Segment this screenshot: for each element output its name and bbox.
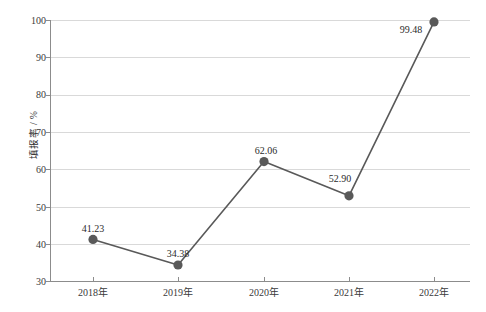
data-markers bbox=[88, 17, 438, 269]
x-axis-ticks bbox=[94, 277, 435, 281]
data-point-2018 bbox=[88, 235, 97, 244]
y-axis-ticks bbox=[46, 21, 50, 282]
data-point-label-2020: 62.06 bbox=[234, 146, 298, 156]
data-line bbox=[93, 22, 434, 265]
gridlines bbox=[50, 21, 470, 245]
plot-area bbox=[0, 0, 486, 312]
line-chart: 填报率 / % 100 90 80 70 60 50 40 30 bbox=[0, 0, 486, 312]
x-tick-label-2020: 2020年 bbox=[229, 288, 299, 298]
x-tick-label-2019: 2019年 bbox=[143, 288, 213, 298]
x-tick-label-2022: 2022年 bbox=[399, 288, 469, 298]
data-point-label-2018: 41.23 bbox=[61, 224, 125, 234]
x-tick-label-2021: 2021年 bbox=[314, 288, 384, 298]
data-point-label-2021: 52.90 bbox=[308, 174, 372, 184]
data-point-2019 bbox=[173, 260, 182, 269]
data-point-2021 bbox=[344, 191, 353, 200]
x-tick-label-2018: 2018年 bbox=[58, 288, 128, 298]
data-point-label-2022: 99.48 bbox=[379, 25, 443, 35]
data-point-label-2019: 34.38 bbox=[146, 249, 210, 259]
data-point-2020 bbox=[259, 157, 268, 166]
